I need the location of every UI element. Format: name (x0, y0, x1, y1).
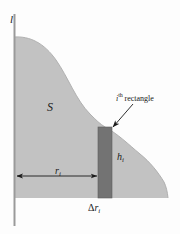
figure-container: l S ith rectangle hi ri Δri (0, 0, 180, 234)
rectangle-width-label: Δri (88, 203, 100, 213)
height-subscript: i (122, 156, 124, 164)
figure-canvas (0, 0, 180, 234)
ith-rectangle (98, 127, 112, 198)
vertical-axis-label: l (10, 14, 13, 25)
ith-rectangle-callout-label: ith rectangle (116, 92, 154, 103)
region-label: S (47, 101, 53, 113)
region-under-curve (14, 37, 168, 198)
rectangle-height-label: hi (117, 152, 124, 162)
callout-ordinal-suffix: th (118, 92, 122, 98)
radius-label: ri (55, 166, 61, 176)
radius-subscript: i (59, 170, 61, 178)
callout-leader-line (113, 104, 133, 127)
callout-word: rectangle (125, 94, 154, 103)
